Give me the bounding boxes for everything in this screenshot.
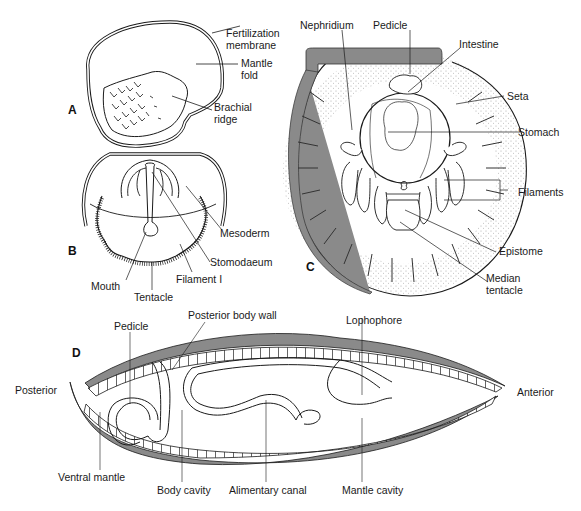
label-filaments: Filaments <box>518 186 564 198</box>
label-seta: Seta <box>507 90 529 102</box>
label-tentacle: Tentacle <box>134 291 173 303</box>
label-body-cavity: Body cavity <box>157 484 211 496</box>
panel-label-a: A <box>68 103 77 117</box>
panel-label-c: C <box>306 260 315 274</box>
label-pedicle-d: Pedicle <box>114 320 148 332</box>
label-lophophore: Lophophore <box>346 314 402 326</box>
label-fertilization-membrane: Fertilizationmembrane <box>226 27 280 51</box>
label-stomach: Stomach <box>518 126 559 138</box>
label-alimentary-canal: Alimentary canal <box>229 484 307 496</box>
panel-label-b: B <box>68 244 77 258</box>
panel-a-drawing <box>88 22 240 146</box>
panel-d-drawing <box>70 318 505 482</box>
label-ventral-mantle: Ventral mantle <box>58 471 125 483</box>
panel-b-drawing <box>84 154 226 290</box>
label-brachial-ridge: Brachialridge <box>214 101 252 125</box>
panel-c-drawing <box>283 30 527 296</box>
label-intestine: Intestine <box>459 38 499 50</box>
label-epistome: Epistome <box>499 245 543 257</box>
label-mantle-fold: Mantlefold <box>241 57 273 81</box>
diagram-canvas <box>0 0 581 511</box>
label-stomodaeum: Stomodaeum <box>210 256 272 268</box>
label-filament-i: Filament I <box>176 273 222 285</box>
label-nephridium: Nephridium <box>300 19 354 31</box>
label-anterior: Anterior <box>517 386 554 398</box>
label-posterior-body-wall: Posterior body wall <box>188 309 277 321</box>
label-mouth: Mouth <box>91 280 120 292</box>
label-pedicle-c: Pedicle <box>373 19 407 31</box>
label-mantle-cavity: Mantle cavity <box>342 484 403 496</box>
label-posterior: Posterior <box>15 384 57 396</box>
panel-label-d: D <box>72 346 81 360</box>
label-median-tentacle: Mediantentacle <box>486 272 523 296</box>
label-mesoderm: Mesoderm <box>220 227 270 239</box>
